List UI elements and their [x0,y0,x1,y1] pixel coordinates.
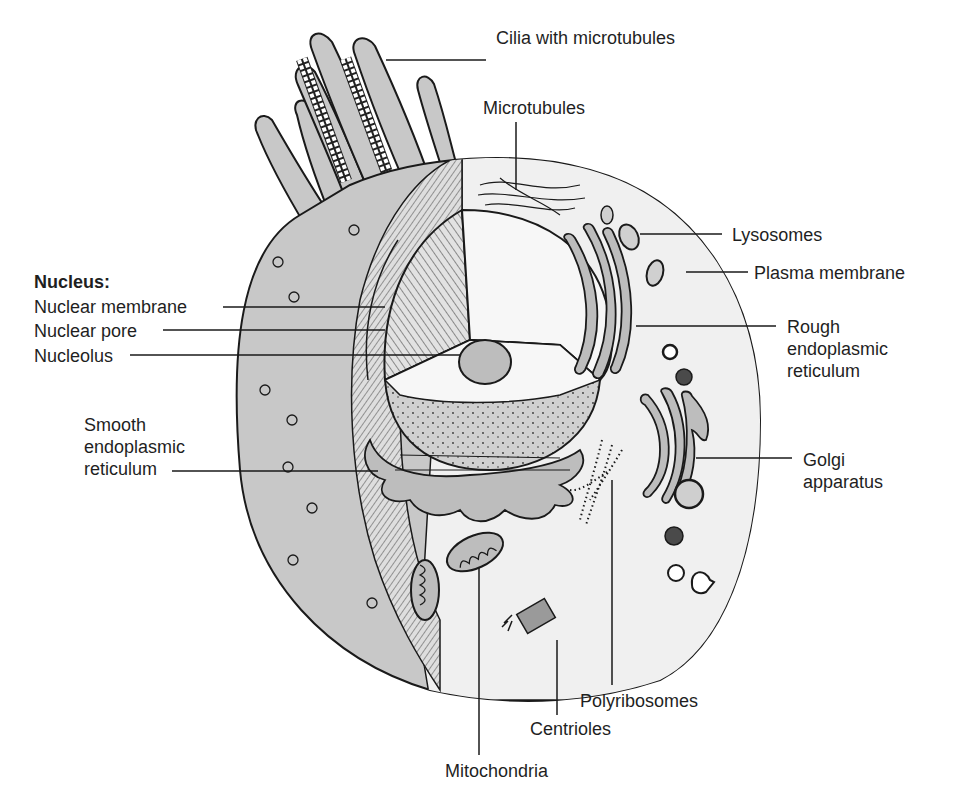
label-rough-er: Rough endoplasmic reticulum [787,316,888,382]
label-polyribosomes: Polyribosomes [580,690,698,712]
label-nucleus-heading: Nucleus: [34,271,110,293]
label-lysosomes: Lysosomes [732,224,822,246]
label-plasma-membrane: Plasma membrane [754,262,905,284]
cell-diagram: Cilia with microtubules Microtubules Lys… [0,0,956,795]
nucleolus [459,340,511,384]
label-microtubules: Microtubules [483,97,585,119]
label-centrioles: Centrioles [530,718,611,740]
label-mitochondria: Mitochondria [445,760,548,782]
label-golgi: Golgi apparatus [803,449,883,493]
label-smooth-er: Smooth endoplasmic reticulum [84,414,185,480]
label-nuclear-pore: Nuclear pore [34,320,137,342]
cell-illustration [0,0,956,795]
label-nucleolus: Nucleolus [34,345,113,367]
label-cilia: Cilia with microtubules [496,27,675,49]
label-nuclear-membrane: Nuclear membrane [34,296,187,318]
